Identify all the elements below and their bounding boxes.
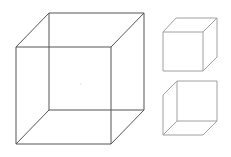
big-necker-cube [16,13,144,144]
cube-drawing [0,0,231,157]
necker-cube-figure: Necker cube and its two interpretations [0,0,231,157]
center-dot [80,83,82,85]
small-cube-from-above [163,18,217,71]
small-cube-from-below [163,81,217,135]
